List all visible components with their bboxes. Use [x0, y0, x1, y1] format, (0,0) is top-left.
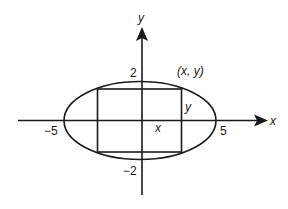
half-height-label: y [184, 100, 192, 114]
y-axis-label: y [137, 11, 145, 25]
half-width-label: x [154, 121, 162, 135]
tick-label-x-neg: −5 [44, 124, 58, 138]
ellipse-rectangle-diagram: y x −5 5 2 −2 (x, y) y x [0, 0, 288, 209]
corner-point-text: (x, y) [177, 64, 204, 78]
x-axis-label: x [269, 114, 277, 128]
tick-label-y-pos: 2 [130, 66, 137, 80]
tick-label-y-neg: −2 [123, 164, 137, 178]
corner-point-label: (x, y) [177, 64, 204, 78]
tick-label-x-pos: 5 [220, 124, 227, 138]
